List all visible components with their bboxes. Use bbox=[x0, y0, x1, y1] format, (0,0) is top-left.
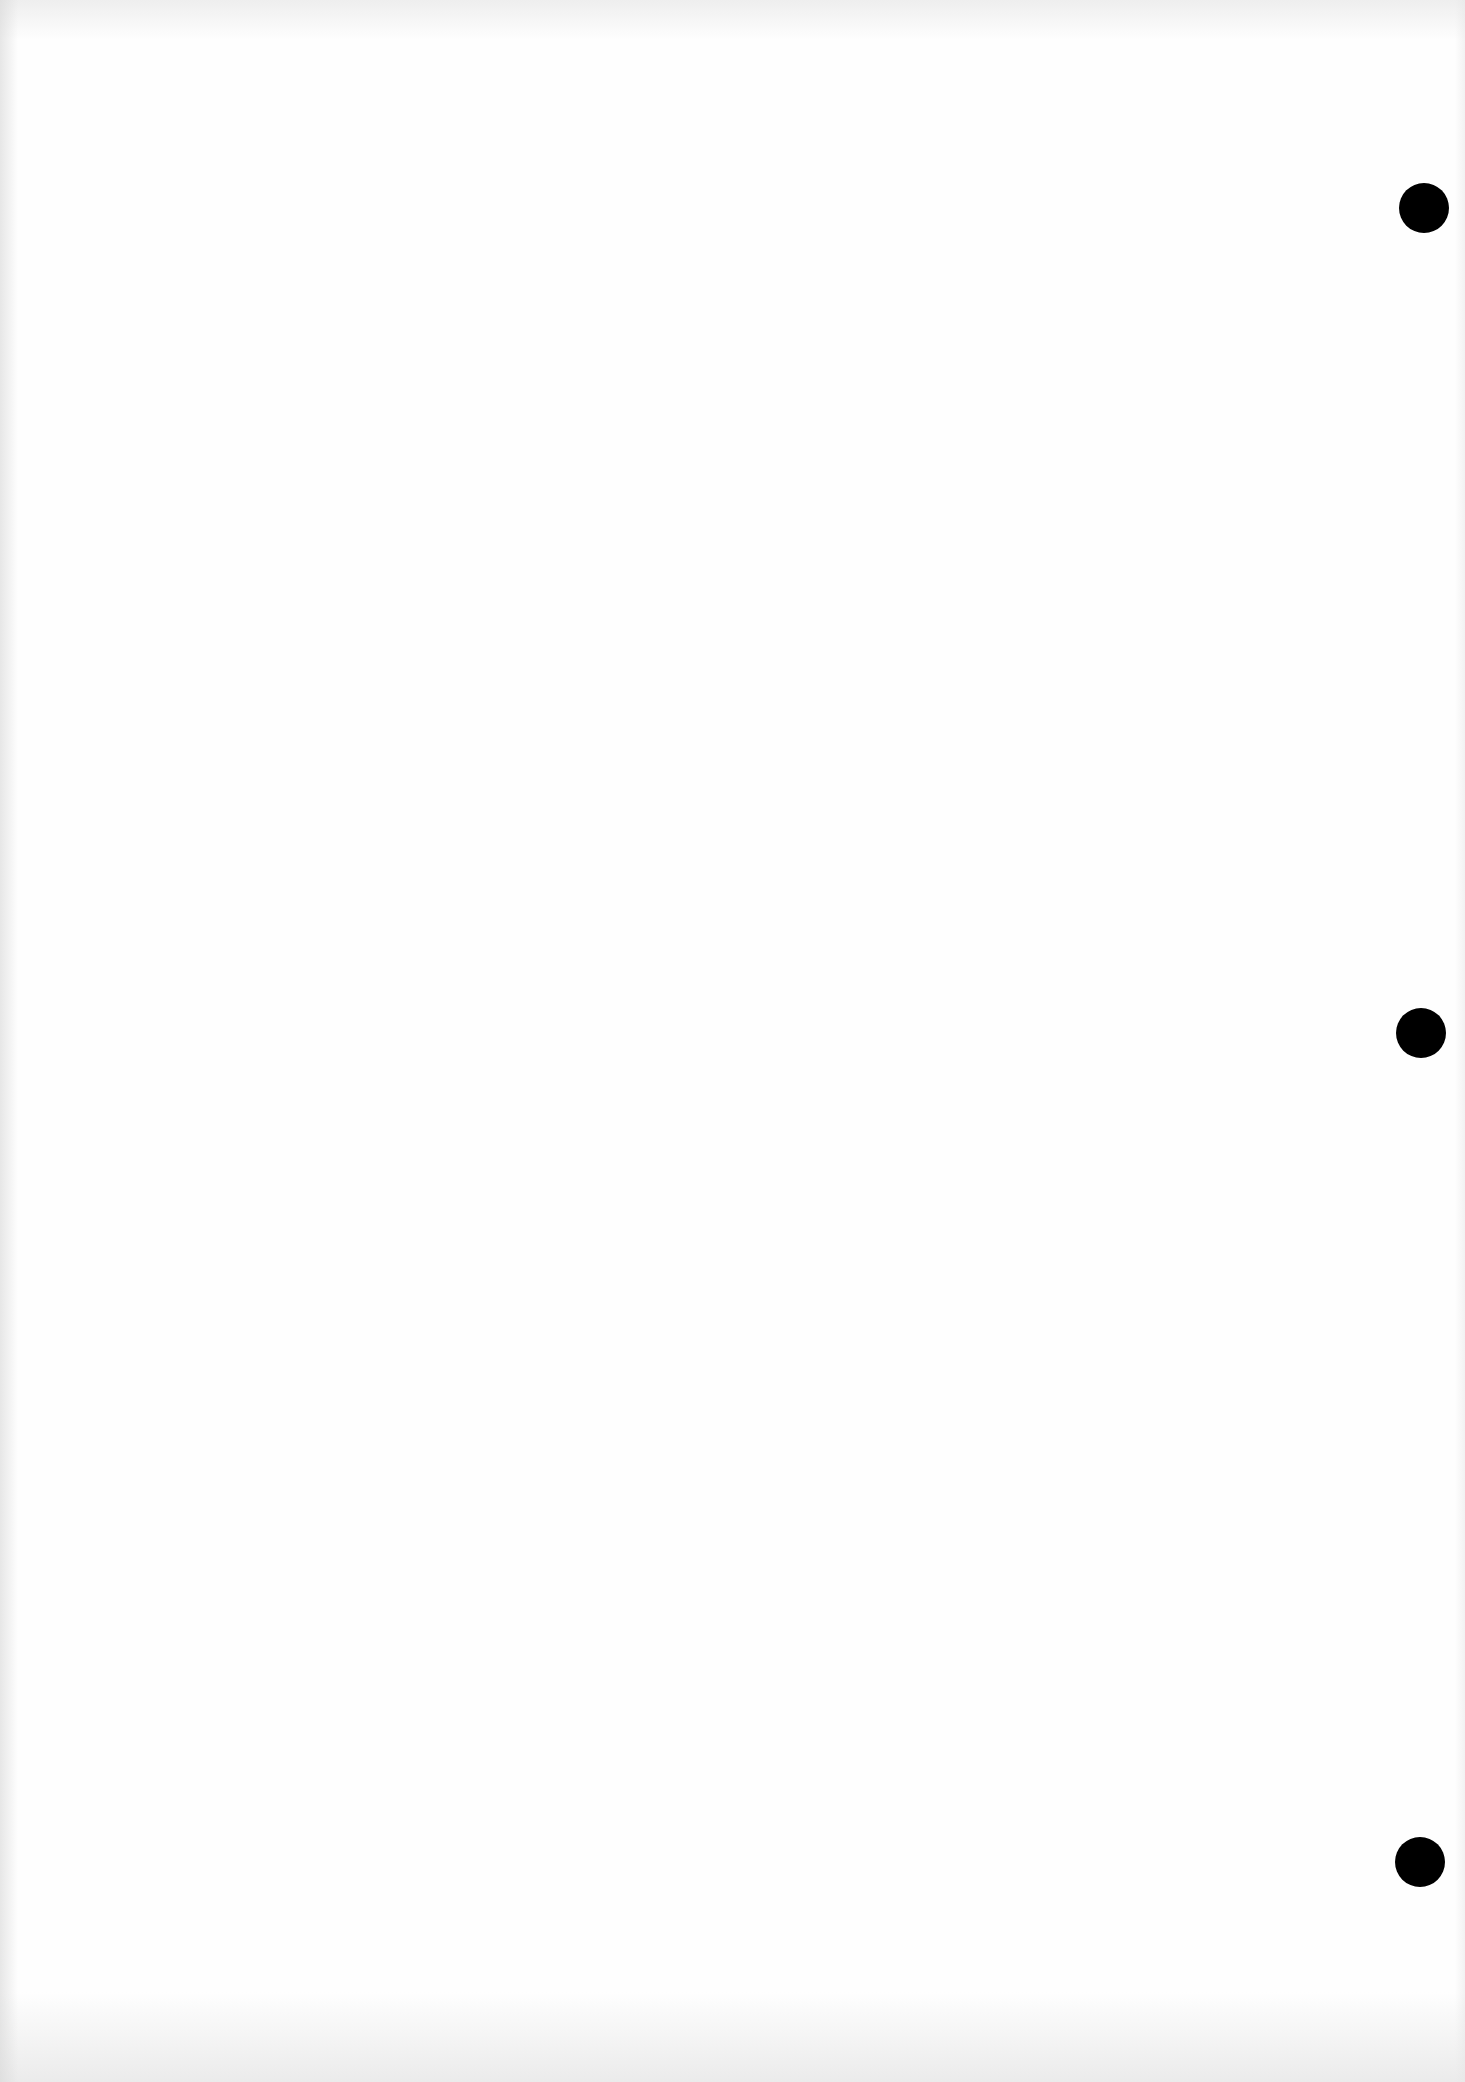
scan-shadow-bottom bbox=[0, 1992, 1465, 2082]
punch-hole-top bbox=[1399, 183, 1449, 233]
scan-shadow-top bbox=[0, 0, 1465, 40]
scan-shadow-left bbox=[0, 0, 18, 2082]
punch-hole-bottom bbox=[1395, 1837, 1445, 1887]
scan-shadow-right bbox=[1455, 0, 1465, 2082]
punch-hole-middle bbox=[1396, 1008, 1446, 1058]
blank-paper-sheet bbox=[0, 0, 1465, 2082]
